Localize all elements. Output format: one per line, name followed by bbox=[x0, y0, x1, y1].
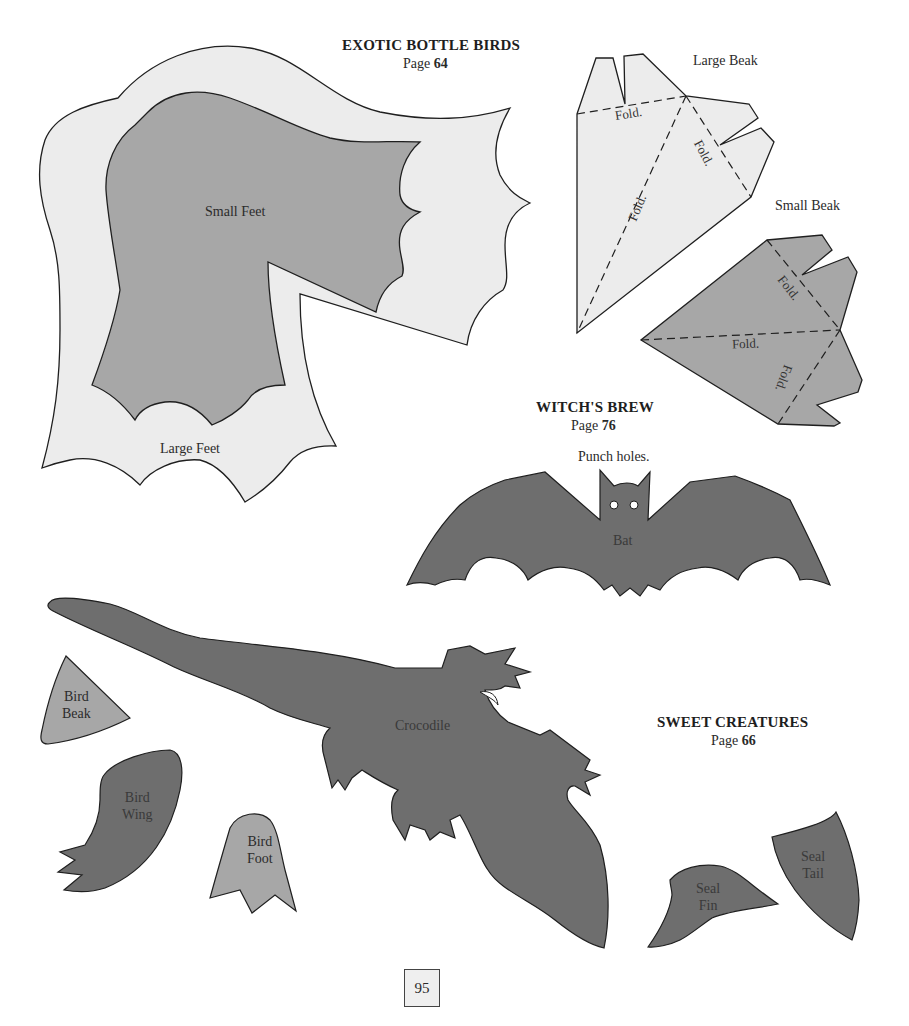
label-line: Seal bbox=[696, 880, 720, 897]
label-line: Seal bbox=[801, 848, 825, 865]
page-prefix: Page bbox=[571, 418, 598, 433]
bat-eye-hole-left bbox=[610, 501, 618, 509]
section-title-exotic-bottle-birds: EXOTIC BOTTLE BIRDS bbox=[342, 37, 520, 54]
label-line: Fin bbox=[696, 897, 720, 914]
label-bird-beak: Bird Beak bbox=[62, 688, 91, 722]
label-punch-holes: Punch holes. bbox=[578, 448, 650, 465]
pattern-artwork bbox=[0, 0, 909, 1026]
section-title-witchs-brew: WITCH'S BREW bbox=[536, 399, 654, 416]
label-bird-foot: Bird Foot bbox=[247, 833, 273, 867]
label-line: Beak bbox=[62, 705, 91, 722]
section-page-witch: Page 76 bbox=[571, 418, 616, 434]
page-ref-number: 66 bbox=[742, 733, 756, 748]
page-prefix: Page bbox=[711, 733, 738, 748]
section-page-exotic: Page 64 bbox=[403, 56, 448, 72]
label-line: Bird bbox=[247, 833, 273, 850]
label-bat: Bat bbox=[613, 532, 632, 549]
label-large-beak: Large Beak bbox=[693, 52, 758, 69]
label-seal-fin: Seal Fin bbox=[696, 880, 720, 914]
bat-eye-hole-right bbox=[630, 501, 638, 509]
bird-wing-shape bbox=[58, 750, 182, 892]
label-line: Bird bbox=[122, 789, 153, 806]
label-small-feet: Small Feet bbox=[205, 203, 265, 220]
label-line: Tail bbox=[801, 865, 825, 882]
fold-label: Fold. bbox=[732, 336, 760, 353]
page-prefix: Page bbox=[403, 56, 430, 71]
small-feet-shape bbox=[92, 92, 420, 425]
label-crocodile: Crocodile bbox=[395, 717, 450, 734]
page-number-box: 95 bbox=[404, 969, 440, 1007]
section-title-sweet-creatures: SWEET CREATURES bbox=[657, 714, 808, 731]
page-ref-number: 76 bbox=[602, 418, 616, 433]
section-page-sweet: Page 66 bbox=[711, 733, 756, 749]
label-line: Wing bbox=[122, 806, 153, 823]
label-line: Foot bbox=[247, 850, 273, 867]
label-small-beak: Small Beak bbox=[775, 197, 840, 214]
label-large-feet: Large Feet bbox=[160, 440, 220, 457]
label-seal-tail: Seal Tail bbox=[801, 848, 825, 882]
page-ref-number: 64 bbox=[434, 56, 448, 71]
label-line: Bird bbox=[62, 688, 91, 705]
large-feet-shape bbox=[40, 46, 530, 502]
label-bird-wing: Bird Wing bbox=[122, 789, 153, 823]
page-number: 95 bbox=[415, 980, 430, 997]
